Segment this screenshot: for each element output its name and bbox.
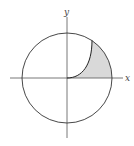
y-axis-label: y <box>63 7 70 17</box>
polar-region-diagram: x y <box>0 0 134 146</box>
x-axis-label: x <box>125 73 130 83</box>
